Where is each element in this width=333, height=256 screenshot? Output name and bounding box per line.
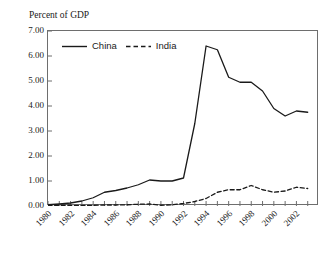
- legend-label-india: India: [156, 41, 177, 51]
- legend-swatch-dashed-line: [126, 43, 151, 50]
- legend-label-china: China: [92, 41, 117, 51]
- x-axis-tick-labels: 1980198219841986198819901992199419961998…: [0, 0, 333, 256]
- legend-entry-india: India: [126, 41, 177, 51]
- legend-swatch-solid-line: [62, 43, 87, 50]
- legend-entry-china: China: [62, 41, 117, 51]
- chart-legend: China India: [62, 41, 176, 51]
- chart-figure: Percent of GDP 0.001.002.003.004.005.006…: [0, 0, 333, 256]
